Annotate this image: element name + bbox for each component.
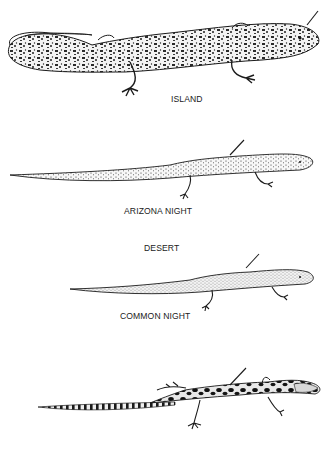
lizard-bottom-unlabeled — [38, 368, 320, 429]
lizard-arizona-night — [10, 140, 313, 199]
pointer-line — [246, 254, 259, 268]
pointer-line — [230, 368, 246, 385]
pointer-line — [307, 11, 318, 25]
label-common-night: COMMON NIGHT — [120, 311, 190, 321]
label-island: ISLAND — [171, 94, 203, 104]
lizard-island — [8, 11, 318, 96]
lizard-illustration — [0, 0, 329, 457]
label-arizona-night: ARIZONA NIGHT — [124, 206, 192, 216]
lizard-common-night — [70, 254, 313, 311]
group-heading-desert: DESERT — [144, 243, 179, 253]
pointer-line — [230, 140, 244, 155]
